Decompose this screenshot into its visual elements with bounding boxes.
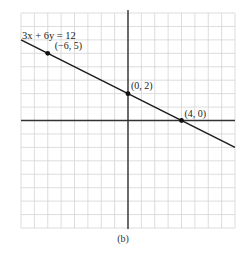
graph-figure: (−6, 5)(0, 2)(4, 0) 3x + 6y = 12 (b) <box>0 0 246 268</box>
data-point <box>179 118 184 123</box>
equation-label: 3x + 6y = 12 <box>22 30 76 41</box>
point-label: (0, 2) <box>131 80 153 92</box>
labeled-points: (−6, 5)(0, 2)(4, 0) <box>45 40 206 123</box>
point-label: (−6, 5) <box>55 40 82 52</box>
figure-caption: (b) <box>0 233 246 244</box>
point-label: (4, 0) <box>185 108 207 120</box>
data-point <box>45 51 50 56</box>
axes <box>21 10 235 229</box>
data-point <box>126 91 131 96</box>
coordinate-plane: (−6, 5)(0, 2)(4, 0) 3x + 6y = 12 <box>0 0 246 268</box>
